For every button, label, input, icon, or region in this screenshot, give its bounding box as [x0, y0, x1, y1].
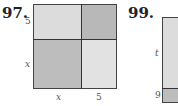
horizontal-divider — [162, 88, 178, 89]
rectangle-outline — [162, 17, 178, 103]
side-label-left-bottom: x — [25, 60, 30, 69]
problem-number-99: 99. — [128, 6, 154, 21]
side-label-left-top: 5 — [25, 17, 31, 26]
side-label-left-bottom: 9 — [155, 91, 161, 100]
side-label-bottom-right: 5 — [96, 93, 102, 102]
horizontal-divider — [33, 39, 117, 40]
side-label-bottom-left: x — [56, 93, 61, 102]
square-outline — [33, 4, 117, 89]
side-label-left-top: t — [155, 49, 159, 58]
vertical-divider — [81, 4, 82, 89]
